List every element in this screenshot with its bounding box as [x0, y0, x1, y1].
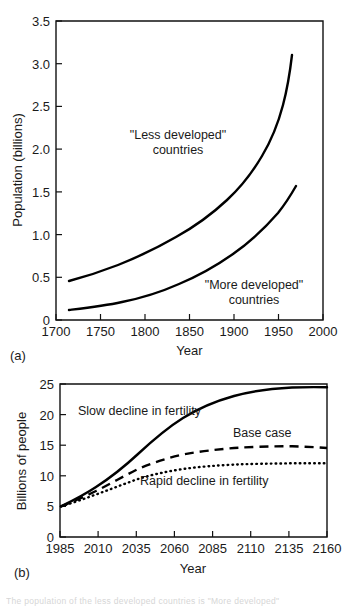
panel-a-axes: [56, 21, 323, 320]
panel-b-y-tick-labels: 25 20 15 10 5 0: [40, 377, 54, 545]
y-tick-label: 3.5: [32, 14, 50, 29]
x-tick-label: 1850: [175, 324, 204, 339]
panel-b-x-ticks: [60, 531, 327, 537]
panel-b-x-axis-title: Year: [180, 561, 207, 576]
trailing-caption: The population of the less developed cou…: [6, 596, 354, 606]
series-label-line: countries: [153, 143, 204, 157]
y-tick-label: 1.0: [32, 228, 50, 243]
series-label-line: "Less developed": [130, 128, 226, 142]
panel-a-annotation-more-developed: "More developed" countries: [205, 278, 304, 307]
x-tick-label: 1700: [42, 324, 71, 339]
panel-b-y-axis-title: Billions of people: [14, 412, 29, 510]
y-tick-label: 15: [40, 438, 54, 453]
panel-b-label: (b): [14, 565, 30, 580]
population-projection-figure: 3.5 3.0 2.5 2.0 1.5 1.0 0.5 0 1700 1750 …: [0, 0, 354, 607]
y-tick-label: 0.5: [32, 270, 50, 285]
panel-a-y-axis-title: Population (billions): [10, 113, 25, 226]
panel-a-annotation-less-developed: "Less developed" countries: [130, 128, 226, 157]
y-tick-label: 25: [40, 377, 54, 392]
x-tick-label: 1750: [86, 324, 115, 339]
panel-a-y-tick-labels: 3.5 3.0 2.5 2.0 1.5 1.0 0.5 0: [32, 14, 50, 328]
panel-b-annotation-rapid-decline: Rapid decline in fertility: [140, 474, 269, 488]
series-label-line: "More developed": [205, 278, 304, 292]
y-tick-label: 5: [47, 499, 54, 514]
y-tick-label: 1.5: [32, 185, 50, 200]
chart-panel-a: 3.5 3.0 2.5 2.0 1.5 1.0 0.5 0 1700 1750 …: [0, 0, 354, 366]
x-tick-label: 2035: [122, 541, 151, 556]
y-tick-label: 2.5: [32, 99, 50, 114]
x-tick-label: 2085: [198, 541, 227, 556]
x-tick-label: 1985: [46, 541, 75, 556]
x-tick-label: 2000: [309, 324, 338, 339]
x-tick-label: 2110: [237, 541, 265, 556]
panel-a-x-tick-labels: 1700 1750 1800 1850 1900 1950 2000: [42, 324, 338, 339]
x-tick-label: 2010: [84, 541, 113, 556]
panel-b-annotation-slow-decline: Slow decline in fertility: [78, 404, 202, 418]
chart-panel-b: 25 20 15 10 5 0 1985 2010 2035 2060 2085…: [0, 366, 354, 607]
y-tick-label: 20: [40, 408, 54, 423]
x-tick-label: 1950: [264, 324, 293, 339]
y-tick-label: 2.0: [32, 142, 50, 157]
panel-b-y-ticks: [60, 384, 66, 537]
y-tick-label: 10: [40, 469, 54, 484]
x-tick-label: 2060: [160, 541, 189, 556]
panel-b-x-tick-labels: 1985 2010 2035 2060 2085 2110 2135 2160: [46, 541, 342, 556]
x-tick-label: 1800: [131, 324, 160, 339]
panel-b-annotation-base-case: Base case: [233, 426, 291, 440]
panel-a-x-ticks: [56, 314, 323, 320]
x-tick-label: 1900: [220, 324, 249, 339]
panel-a-label: (a): [10, 348, 26, 363]
series-less-developed-countries: [69, 55, 292, 281]
x-tick-label: 2160: [313, 541, 342, 556]
panel-a-y-ticks: [56, 21, 62, 320]
panel-a-x-axis-title: Year: [176, 343, 203, 358]
series-label-line: countries: [229, 293, 280, 307]
x-tick-label: 2135: [274, 541, 303, 556]
y-tick-label: 3.0: [32, 57, 50, 72]
